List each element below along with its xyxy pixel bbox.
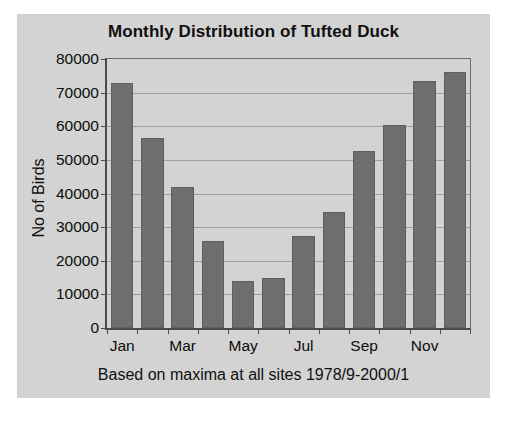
x-axis-tick-mark <box>319 328 320 334</box>
chart-panel: Monthly Distribution of Tufted Duck No o… <box>17 14 490 398</box>
y-axis-tick-label: 20000 <box>56 252 99 270</box>
bar <box>292 236 314 328</box>
y-axis-tick-label: 60000 <box>56 117 99 135</box>
bar <box>171 187 193 328</box>
x-axis-tick-mark <box>198 328 199 334</box>
x-axis-tick-mark <box>470 328 471 334</box>
plot-area: 0100002000030000400005000060000700008000… <box>105 58 471 330</box>
bar <box>323 212 345 328</box>
bar <box>111 83 133 328</box>
y-axis-tick-label: 0 <box>90 319 99 337</box>
x-axis-tick-mark <box>258 328 259 334</box>
x-axis-tick-label: May <box>228 337 257 355</box>
bar <box>353 151 375 328</box>
y-axis-tick-label: 10000 <box>56 285 99 303</box>
bar <box>413 81 435 328</box>
x-axis-tick-label: Nov <box>411 337 439 355</box>
bar <box>141 138 163 328</box>
y-axis-tick-label: 70000 <box>56 84 99 102</box>
x-axis-tick-label: Sep <box>350 337 378 355</box>
y-axis-tick-label: 50000 <box>56 151 99 169</box>
chart-subtitle: Based on maxima at all sites 1978/9-2000… <box>17 366 490 384</box>
x-axis-tick-label: Jan <box>110 337 135 355</box>
x-axis-tick-label: Mar <box>169 337 196 355</box>
bar <box>202 241 224 328</box>
bar <box>444 72 466 328</box>
y-axis-tick-label: 30000 <box>56 218 99 236</box>
x-axis-tick-label: Jul <box>294 337 314 355</box>
x-axis-tick-mark <box>168 328 169 334</box>
bars-group <box>107 59 470 328</box>
bar <box>383 125 405 328</box>
x-axis-tick-mark <box>379 328 380 334</box>
chart-title: Monthly Distribution of Tufted Duck <box>17 22 490 42</box>
x-axis-tick-mark <box>289 328 290 334</box>
y-axis-tick-label: 40000 <box>56 185 99 203</box>
x-axis-tick-mark <box>137 328 138 334</box>
x-axis-tick-mark <box>440 328 441 334</box>
bar <box>232 281 254 328</box>
y-axis-tick-label: 80000 <box>56 50 99 68</box>
y-axis-title: No of Birds <box>30 123 48 273</box>
x-axis-tick-mark <box>349 328 350 334</box>
x-axis-tick-mark <box>228 328 229 334</box>
bar <box>262 278 284 328</box>
x-axis-tick-mark <box>410 328 411 334</box>
x-axis-tick-mark <box>107 328 108 334</box>
